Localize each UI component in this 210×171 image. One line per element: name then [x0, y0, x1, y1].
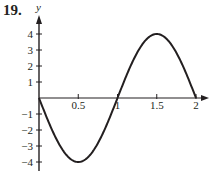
y-tick-label: 3	[28, 44, 34, 56]
y-tick-label: −2	[21, 124, 33, 136]
x-axis-arrow-icon	[201, 95, 209, 101]
x-tick-label: 1.5	[150, 99, 164, 111]
y-tick-label: 1	[28, 76, 34, 88]
y-tick-label: 2	[28, 60, 34, 72]
x-tick-label: 2	[193, 99, 199, 111]
y-tick-label: −1	[21, 108, 33, 120]
y-tick-label: −4	[21, 156, 33, 168]
y-tick-label: −3	[21, 140, 33, 152]
x-tick-label: 0.5	[71, 99, 85, 111]
y-axis-arrow-icon	[36, 15, 42, 24]
y-tick-label: 4	[28, 28, 34, 40]
y-axis-label: y	[35, 1, 41, 13]
sine-chart: y0.511.524321−1−2−3−4	[0, 0, 210, 171]
